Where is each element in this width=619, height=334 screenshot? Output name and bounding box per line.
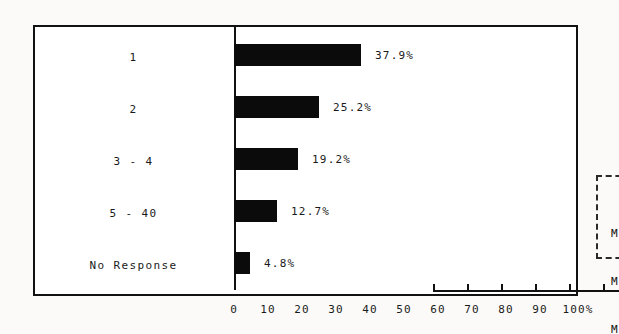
x-tick-label-0: 0 bbox=[230, 303, 238, 316]
statistics-callout-box: Mean = 2.8 Median = 1.5 Mode = 1.0 bbox=[596, 175, 619, 259]
bar-value-1: 37.9% bbox=[375, 49, 414, 62]
x-axis-line bbox=[433, 290, 619, 292]
x-tick-label-80: 80 bbox=[498, 303, 513, 316]
x-tick-label-70: 70 bbox=[464, 303, 479, 316]
x-tick-label-90: 90 bbox=[532, 303, 547, 316]
x-tick-0 bbox=[433, 284, 435, 291]
category-label-3: 3 - 4 bbox=[35, 155, 232, 168]
scanned-page-background: 1 2 3 - 4 5 - 40 No Response 37.9% 25.2%… bbox=[0, 0, 619, 334]
statistic-mode: Mode = 1.0 bbox=[611, 322, 619, 334]
category-label-4: 5 - 40 bbox=[35, 207, 232, 220]
x-tick-20 bbox=[501, 284, 503, 291]
x-tick-50 bbox=[603, 284, 605, 291]
x-tick-label-40: 40 bbox=[362, 303, 377, 316]
x-tick-label-20: 20 bbox=[294, 303, 309, 316]
x-tick-40 bbox=[569, 284, 571, 291]
statistic-mean: Mean = 2.8 bbox=[611, 226, 619, 242]
x-tick-label-50: 50 bbox=[396, 303, 411, 316]
x-axis bbox=[433, 290, 619, 298]
category-label-2: 2 bbox=[35, 103, 232, 116]
bar-4 bbox=[234, 200, 277, 222]
bar-value-3: 19.2% bbox=[312, 153, 351, 166]
bar-value-4: 12.7% bbox=[291, 205, 330, 218]
plot-area: 37.9% 25.2% 19.2% 12.7% 4.8% Me bbox=[234, 27, 576, 294]
category-label-5: No Response bbox=[35, 259, 232, 272]
bar-3 bbox=[234, 148, 298, 170]
x-tick-label-100: 100% bbox=[563, 303, 594, 316]
chart-frame: 1 2 3 - 4 5 - 40 No Response 37.9% 25.2%… bbox=[33, 25, 578, 296]
statistic-median: Median = 1.5 bbox=[611, 274, 619, 290]
x-tick-label-60: 60 bbox=[430, 303, 445, 316]
x-tick-30 bbox=[535, 284, 537, 291]
bar-2 bbox=[234, 96, 319, 118]
category-label-1: 1 bbox=[35, 51, 232, 64]
category-label-panel: 1 2 3 - 4 5 - 40 No Response bbox=[35, 27, 232, 294]
bar-1 bbox=[234, 44, 361, 66]
x-tick-10 bbox=[467, 284, 469, 291]
statistics-list: Mean = 2.8 Median = 1.5 Mode = 1.0 bbox=[611, 194, 619, 334]
bar-value-2: 25.2% bbox=[333, 101, 372, 114]
bar-value-5: 4.8% bbox=[264, 257, 295, 270]
bar-5 bbox=[234, 252, 250, 274]
x-tick-label-10: 10 bbox=[260, 303, 275, 316]
x-tick-label-30: 30 bbox=[328, 303, 343, 316]
